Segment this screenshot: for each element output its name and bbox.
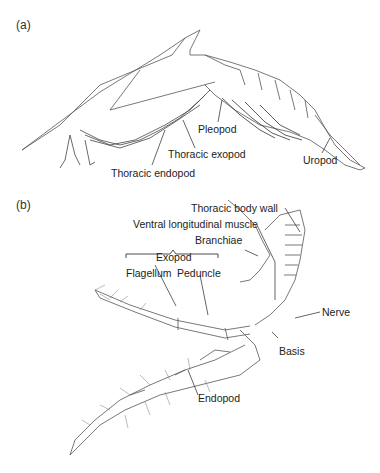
label-exopod: Exopod	[156, 252, 192, 263]
label-flagellum: Flagellum	[126, 268, 172, 279]
label-ventral-longitudinal-muscle: Ventral longitudinal muscle	[133, 219, 258, 230]
appendage-b	[70, 200, 305, 455]
label-thoracic-exopod: Thoracic exopod	[168, 149, 246, 160]
label-thoracic-endopod: Thoracic endopod	[111, 168, 195, 179]
label-pleopod: Pleopod	[198, 124, 237, 135]
label-nerve: Nerve	[322, 307, 350, 318]
label-uropod: Uropod	[303, 155, 337, 166]
label-branchiae: Branchiae	[195, 235, 242, 246]
label-thoracic-body-wall: Thoracic body wall	[191, 203, 278, 214]
panel-label-a: (a)	[16, 18, 31, 32]
label-endopod: Endopod	[198, 393, 240, 404]
label-peduncle: Peduncle	[177, 268, 221, 279]
diagram-drawing	[0, 0, 380, 473]
label-basis: Basis	[279, 346, 305, 357]
setae	[82, 285, 210, 428]
panel-label-b: (b)	[16, 198, 31, 212]
